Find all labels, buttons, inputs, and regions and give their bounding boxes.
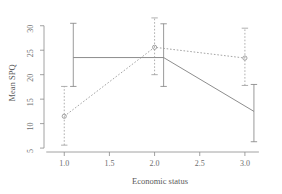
x-tick-label-4: 3.0	[240, 159, 250, 168]
x-tick-label-2: 2.0	[150, 159, 160, 168]
y-axis-title: Mean SPQ	[7, 64, 17, 101]
y-tick-label-4: 25	[26, 49, 35, 57]
x-tick-label-0: 1.0	[59, 159, 69, 168]
chart-container: 1.01.52.02.53.051015202530Economic statu…	[0, 0, 282, 194]
x-tick-label-3: 2.5	[195, 159, 205, 168]
y-tick-label-0: 5	[26, 149, 35, 153]
x-axis-title: Economic status	[132, 176, 188, 186]
x-tick-label-1: 1.5	[104, 159, 114, 168]
y-tick-label-5: 30	[26, 25, 35, 33]
y-tick-label-3: 20	[26, 74, 35, 82]
chart-canvas: 1.01.52.02.53.051015202530Economic statu…	[0, 0, 282, 194]
y-tick-label-2: 15	[26, 98, 35, 106]
y-tick-label-1: 10	[26, 123, 35, 131]
